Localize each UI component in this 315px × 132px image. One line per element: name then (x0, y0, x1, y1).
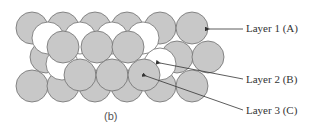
sphere-layer-a (16, 70, 48, 102)
figure-caption: (b) (104, 110, 117, 122)
sphere-layer-c (128, 59, 160, 91)
sphere-layer-a (176, 12, 208, 44)
sphere-layer-c (81, 31, 113, 63)
sphere-layer-c (64, 59, 96, 91)
sphere-layer-a (192, 41, 224, 73)
sphere-layer-c (47, 31, 79, 63)
sphere-layer-a (176, 70, 208, 102)
label-layer-1: Layer 1 (A) (246, 22, 298, 34)
label-layer-2: Layer 2 (B) (246, 73, 297, 85)
close-packing-diagram: Layer 1 (A) Layer 2 (B) Layer 3 (C) (b) (0, 0, 315, 132)
sphere-layer-c (96, 59, 128, 91)
label-layer-3: Layer 3 (C) (246, 104, 297, 116)
sphere-layer-c (112, 31, 144, 63)
